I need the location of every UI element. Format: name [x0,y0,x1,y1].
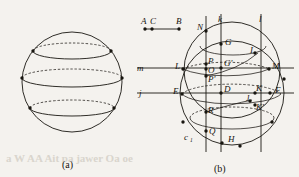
label-h: H [227,134,235,144]
label-pprime: P' [207,74,216,84]
caption-a: (a) [62,159,73,171]
label-kprime: K' [255,102,265,112]
unlabeled-dot-0 [181,120,184,123]
point-f-dot [268,91,271,94]
point-gprime-dot [219,66,222,69]
sphere-point-upper-left [31,49,34,52]
sphere-point-upper-right [109,49,112,52]
figure-canvas: A C B k l m j N G I L P G' M O P' E D K … [0,0,299,177]
point-q-dot [204,129,207,132]
sphere-outline [22,32,122,132]
unlabeled-dot-2 [270,120,273,123]
sphere-point-lower-right [112,106,115,109]
label-m-pt: M [271,61,280,71]
panel-b-construction: A C B k l m j N G I L P G' M O P' E D K … [137,14,294,152]
label-line-l: l [259,14,262,24]
equator-latitude-front-arc [22,78,122,87]
point-b-dot [177,27,180,30]
panel-a-sphere [20,32,123,132]
sphere-point-lower-left [28,106,31,109]
sphere-point-equator-left [20,76,23,79]
label-l-pt: L [174,61,180,71]
point-g-dot [219,42,222,45]
equator-latitude-back-arc [22,69,122,78]
label-c: C [150,16,157,26]
label-line-j: j [138,88,142,98]
point-e-dot [180,92,183,95]
point-m-dot [267,67,270,70]
label-a: A [140,16,147,26]
point-n-dot [204,29,207,32]
point-i-dot [253,51,256,54]
upper-latitude-front-arc [33,51,111,59]
unlabeled-dot-3 [282,77,285,80]
label-n: N [196,22,204,32]
point-d-dot [219,91,222,94]
label-r: R [207,105,214,115]
ellipse-LM-front [183,69,269,76]
label-line-m: m [137,63,144,73]
point-a-dot [143,27,146,30]
label-d: D [223,84,231,94]
caption-b: (b) [214,163,226,175]
label-line-k: k [218,14,223,24]
label-c1: c [184,132,188,142]
label-e: E [172,86,179,96]
label-i: I [249,45,254,55]
label-gprime: G' [224,58,233,68]
lower-latitude-back-arc [30,100,114,108]
unlabeled-dot-1 [238,144,241,147]
point-h-dot [220,141,223,144]
segment-acb [143,27,180,30]
label-f: F [274,85,281,95]
label-b: B [176,16,182,26]
ellipse-EF-back [182,84,281,94]
figure-page: a W AA Ait pa jawer Oa oe [0,0,299,177]
point-c-dot [150,27,153,30]
label-q: Q [209,126,216,136]
sphere-point-equator-right [120,76,123,79]
label-k-pt: K [255,83,263,93]
label-g: G [225,37,232,47]
lower-latitude-front-arc [30,108,114,116]
label-c1-sub: 1 [190,137,193,143]
point-l-dot [181,67,184,70]
upper-latitude-back-arc [33,43,111,51]
